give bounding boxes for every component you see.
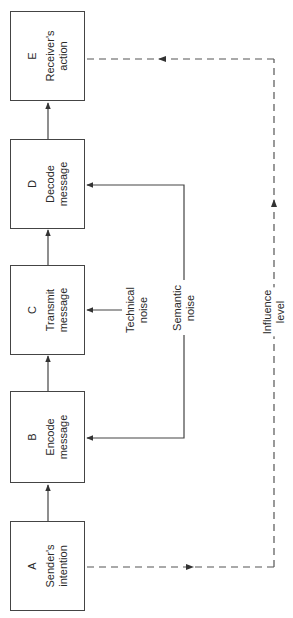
box-letter: D [26, 180, 39, 188]
box-a-senders-intention: A Sender's intention [10, 521, 85, 611]
box-letter: C [26, 306, 39, 314]
arrow-up-icon [271, 199, 277, 207]
box-letter: A [26, 562, 39, 569]
arrow-left-icon [158, 56, 166, 62]
technical-noise-label: Technical noise [124, 285, 150, 335]
box-label: Sender's intention [44, 544, 70, 587]
box-d-decode-message: D Decode message [10, 139, 85, 229]
box-label: Encode message [44, 415, 70, 460]
semantic-noise-label: Semantic noise [171, 283, 197, 333]
arrow-right-icon [186, 564, 194, 570]
box-letter: E [26, 52, 39, 59]
box-label: Transmit message [44, 288, 70, 333]
box-c-transmit-message: C Transmit message [10, 265, 85, 355]
box-letter: B [26, 433, 39, 440]
box-e-receivers-action: E Receiver's action [10, 11, 85, 101]
box-label: Decode message [44, 162, 70, 207]
influence-level-label: Influence level [261, 288, 287, 337]
box-label: Receiver's action [44, 31, 70, 82]
box-b-encode-message: B Encode message [10, 391, 85, 483]
